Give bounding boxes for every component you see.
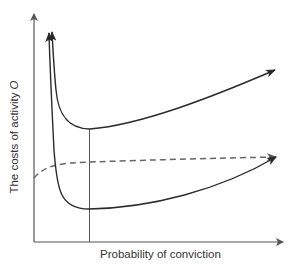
lower-cost-curve [48,32,56,230]
lower-cost-curve-left-branch [49,33,89,209]
y-axis-label: The costs of activity O [8,80,20,193]
upper-cost-curve-left-branch [52,32,90,129]
diagram-canvas [0,0,297,268]
lower-cost-curve-right-branch [89,157,276,209]
x-axis-label: Probability of conviction [100,248,221,260]
upper-cost-curve-right-branch [90,70,275,129]
